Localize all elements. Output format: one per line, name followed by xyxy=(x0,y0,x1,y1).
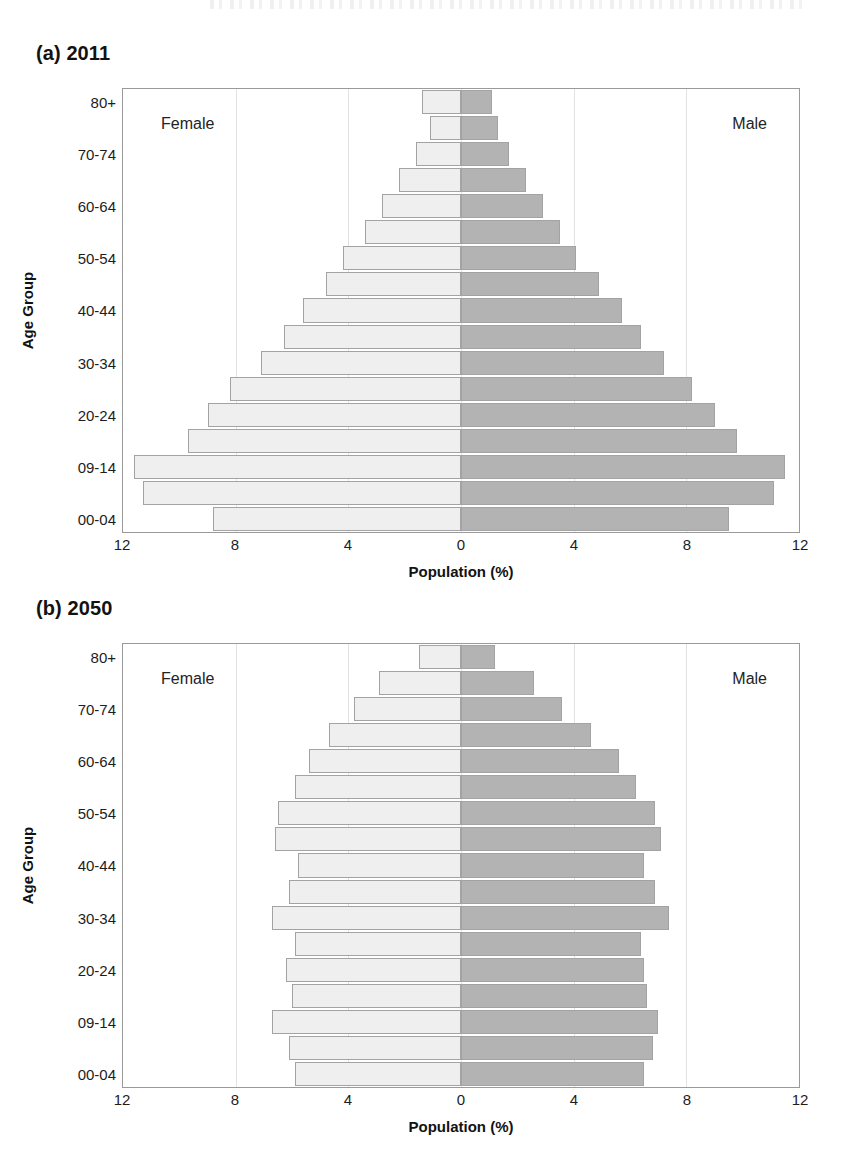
bar-row: 50-54 xyxy=(123,245,799,271)
bar-male-45-49 xyxy=(461,272,599,296)
y-tick-20-24: 20-24 xyxy=(78,406,116,423)
bar-row xyxy=(123,826,799,852)
y-tick-70-74: 70-74 xyxy=(78,701,116,718)
bar-row xyxy=(123,324,799,350)
bar-male-60-64 xyxy=(461,749,619,773)
bar-male-00-04 xyxy=(461,1062,644,1086)
bar-female-65-69 xyxy=(329,723,461,747)
bar-female-50-54 xyxy=(278,801,461,825)
bar-male-65-69 xyxy=(461,723,591,747)
bar-row xyxy=(123,376,799,402)
x-tick-1: 8 xyxy=(231,1091,239,1108)
x-tick-4: 4 xyxy=(570,1091,578,1108)
bar-row: 30-34 xyxy=(123,905,799,931)
bar-row: 20-24 xyxy=(123,402,799,428)
bar-female-20-24 xyxy=(286,958,461,982)
bar-male-25-29 xyxy=(461,932,641,956)
bar-female-45-49 xyxy=(275,827,461,851)
bar-row: 70-74 xyxy=(123,696,799,722)
bar-male-15-19 xyxy=(461,984,647,1008)
bar-row xyxy=(123,115,799,141)
y-tick-80+: 80+ xyxy=(91,648,116,665)
x-tick-4: 4 xyxy=(570,536,578,553)
bar-row: 00-04 xyxy=(123,506,799,532)
x-tick-6: 12 xyxy=(792,536,809,553)
y-tick-50-54: 50-54 xyxy=(78,250,116,267)
bar-row xyxy=(123,722,799,748)
bar-row: 00-04 xyxy=(123,1061,799,1087)
bar-male-20-24 xyxy=(461,958,644,982)
bar-male-50-54 xyxy=(461,246,576,270)
x-tick-labels-b: 128404812 xyxy=(122,1091,800,1113)
y-tick-09-14: 09-14 xyxy=(78,458,116,475)
y-tick-30-34: 30-34 xyxy=(78,354,116,371)
bar-male-70-74 xyxy=(461,697,562,721)
y-tick-00-04: 00-04 xyxy=(78,510,116,527)
panel-title-2011: (a) 2011 xyxy=(36,42,110,65)
bar-female-40-44 xyxy=(303,298,461,322)
bar-male-80+ xyxy=(461,645,495,669)
y-tick-60-64: 60-64 xyxy=(78,753,116,770)
bar-female-70-74 xyxy=(416,142,461,166)
bar-male-00-04 xyxy=(461,507,729,531)
bar-row: 60-64 xyxy=(123,748,799,774)
female-side-label-a: Female xyxy=(161,115,214,133)
bar-female-45-49 xyxy=(326,272,461,296)
bar-row xyxy=(123,1035,799,1061)
bar-male-55-59 xyxy=(461,220,560,244)
bar-female-00-04 xyxy=(295,1062,461,1086)
bar-male-05-09 xyxy=(461,481,774,505)
male-side-label-a: Male xyxy=(732,115,767,133)
bar-row: 60-64 xyxy=(123,193,799,219)
bar-female-35-39 xyxy=(284,325,461,349)
bar-female-09-14 xyxy=(272,1010,461,1034)
bar-row xyxy=(123,219,799,245)
bar-female-15-19 xyxy=(188,429,461,453)
bar-female-65-69 xyxy=(399,168,461,192)
bar-rows-a: 00-0409-1420-2430-3440-4450-5460-6470-74… xyxy=(123,89,799,532)
bar-female-40-44 xyxy=(298,853,461,877)
bar-female-50-54 xyxy=(343,246,461,270)
bar-female-15-19 xyxy=(292,984,461,1008)
bar-female-30-34 xyxy=(261,351,461,375)
female-side-label-b: Female xyxy=(161,670,214,688)
bar-row: 70-74 xyxy=(123,141,799,167)
y-tick-80+: 80+ xyxy=(91,93,116,110)
x-tick-2: 4 xyxy=(344,536,352,553)
bar-row: 40-44 xyxy=(123,297,799,323)
male-side-label-b: Male xyxy=(732,670,767,688)
bar-male-40-44 xyxy=(461,298,622,322)
bar-female-75-79 xyxy=(430,116,461,140)
bar-female-05-09 xyxy=(143,481,461,505)
y-tick-20-24: 20-24 xyxy=(78,961,116,978)
y-tick-60-64: 60-64 xyxy=(78,198,116,215)
bar-row: 80+ xyxy=(123,89,799,115)
y-tick-40-44: 40-44 xyxy=(78,857,116,874)
bar-female-55-59 xyxy=(295,775,461,799)
y-axis-title-b: Age Group xyxy=(18,643,38,1088)
bar-female-20-24 xyxy=(208,403,462,427)
bar-female-05-09 xyxy=(289,1036,461,1060)
y-axis-title-a: Age Group xyxy=(18,88,38,533)
x-tick-0: 12 xyxy=(114,536,131,553)
bar-male-80+ xyxy=(461,90,492,114)
bar-female-75-79 xyxy=(379,671,461,695)
scan-artifact-top xyxy=(210,0,810,9)
bar-male-09-14 xyxy=(461,1010,658,1034)
bar-male-35-39 xyxy=(461,325,641,349)
bar-female-70-74 xyxy=(354,697,461,721)
bar-female-09-14 xyxy=(134,455,461,479)
bar-row: 80+ xyxy=(123,644,799,670)
bar-row xyxy=(123,774,799,800)
bar-male-45-49 xyxy=(461,827,661,851)
bar-row: 40-44 xyxy=(123,852,799,878)
bar-row xyxy=(123,931,799,957)
bar-row xyxy=(123,167,799,193)
bar-female-60-64 xyxy=(382,194,461,218)
bar-female-60-64 xyxy=(309,749,461,773)
bar-male-55-59 xyxy=(461,775,636,799)
bar-male-60-64 xyxy=(461,194,543,218)
bar-row xyxy=(123,879,799,905)
x-tick-1: 8 xyxy=(231,536,239,553)
bar-female-35-39 xyxy=(289,880,461,904)
